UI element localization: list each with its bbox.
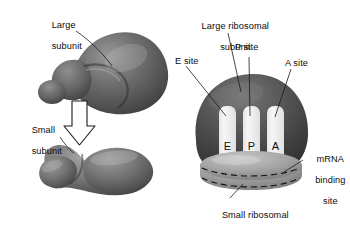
label-a-site: A site — [285, 58, 308, 69]
p-site-letter: P — [243, 140, 260, 152]
label-small-subunit: Small subunit — [21, 114, 62, 167]
label-large-ribosomal-line1: Large ribosomal — [202, 21, 269, 31]
label-small-subunit-line2: subunit — [32, 146, 62, 156]
label-small-ribosomal-line1: Small ribosomal — [222, 210, 289, 220]
e-site-letter: E — [219, 140, 236, 152]
label-small-ribosomal-subunit: Small ribosomal subunit — [190, 199, 310, 227]
label-mrna-line2: binding — [315, 175, 345, 185]
ribosome-figure: Large subunit Small subunit Large riboso… — [0, 0, 350, 227]
label-large-subunit: Large subunit — [41, 9, 82, 62]
label-mrna-line3: site — [323, 196, 338, 206]
label-p-site: P site — [235, 42, 258, 53]
label-large-subunit-line2: subunit — [52, 41, 82, 51]
label-small-subunit-line1: Small — [32, 125, 55, 135]
label-mrna-line1: mRNA — [317, 154, 344, 164]
assembly-arrow-icon — [64, 101, 95, 145]
label-large-subunit-line1: Large — [52, 20, 76, 30]
label-e-site: E site — [175, 56, 199, 67]
a-site-letter: A — [267, 140, 284, 152]
